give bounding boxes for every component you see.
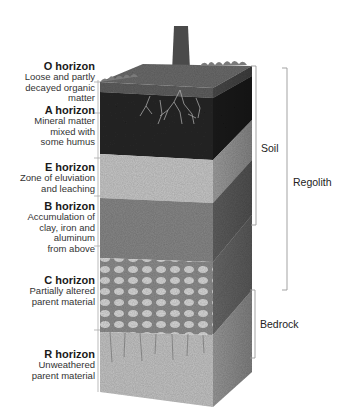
e-horizon-desc-2: and leaching (0, 184, 95, 195)
a-layer-front (100, 92, 213, 160)
c-horizon-desc-1: Partially altered (0, 286, 95, 297)
o-horizon-desc-3: matter (0, 93, 95, 104)
c-layer-front (100, 258, 213, 335)
a-horizon-desc-1: Mineral matter (0, 116, 95, 127)
label-e-horizon: E horizon Zone of eluviation and leachin… (0, 161, 95, 194)
r-horizon-desc-1: Unweathered (0, 360, 95, 371)
label-c-horizon: C horizon Partially altered parent mater… (0, 274, 95, 307)
bedrock-label: Bedrock (260, 318, 299, 330)
a-horizon-desc-3: some humus (0, 137, 95, 148)
r-horizon-desc-2: parent material (0, 371, 95, 382)
regolith-label: Regolith (293, 176, 332, 188)
label-r-horizon: R horizon Unweathered parent material (0, 348, 95, 381)
front-face (100, 82, 213, 407)
b-horizon-desc-3: aluminum (0, 233, 95, 244)
e-layer-front (100, 154, 213, 203)
label-b-horizon: B horizon Accumulation of clay, iron and… (0, 200, 95, 254)
label-o-horizon: O horizon Loose and partly decayed organ… (0, 60, 95, 104)
label-a-horizon: A horizon Mineral matter mixed with some… (0, 104, 95, 148)
o-horizon-desc-1: Loose and partly (0, 72, 95, 83)
soil-label: Soil (261, 142, 279, 154)
c-horizon-desc-2: parent material (0, 297, 95, 308)
regolith-bracket (282, 68, 287, 290)
b-horizon-desc-4: from above (0, 244, 95, 255)
r-layer-front (100, 332, 213, 407)
b-layer-front (100, 198, 213, 262)
e-horizon-desc-1: Zone of eluviation (0, 173, 95, 184)
b-horizon-desc-1: Accumulation of (0, 212, 95, 223)
